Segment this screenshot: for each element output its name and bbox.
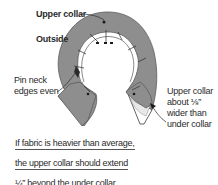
note-line-2: the upper collar should extend [15,158,128,170]
note-line-3: ¼” beyond the under collar. [15,178,117,185]
neck-seam-inner [82,37,134,83]
label-outside: Outside [36,34,68,45]
heavy-fabric-note: If fabric is heavier than average, the u… [15,132,133,185]
label-pin-neck-1: Pin neck [14,75,47,86]
label-wider-1: Upper collar [167,86,213,97]
note-line-1: If fabric is heavier than average, [15,138,135,150]
label-wider-2: about ⅛” [167,97,201,108]
label-pin-neck-2: edges even [14,86,59,97]
label-wider-3: wider than [167,108,207,119]
collar-diagram: Upper collar Outside Pin neck edges even… [0,0,218,185]
label-wider-4: under collar [167,119,212,130]
leader-wider [152,106,166,122]
neck-seam [79,34,136,83]
label-upper-collar: Upper collar [36,9,86,20]
